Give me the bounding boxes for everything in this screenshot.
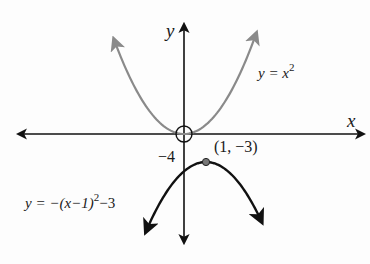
graph-figure: x y y = x2 y = −(x−1)2−3 (1, −3) −4 [0, 0, 370, 264]
series-label-x-squared: y = x2 [256, 61, 294, 81]
curve-negative-shifted-parabola [146, 162, 263, 233]
series-label-shifted-tail: −3 [99, 195, 115, 211]
vertex-point [202, 158, 209, 165]
y-axis-label: y [164, 20, 175, 41]
series-label-x-squared-exponent: 2 [289, 61, 295, 73]
x-axis-label: x [346, 110, 356, 131]
vertex-coordinate-label: (1, −3) [214, 138, 258, 156]
series-label-shifted-parabola: y = −(x−1)2−3 [23, 191, 115, 212]
series-label-shifted-text: y = −(x−1) [23, 195, 94, 212]
coordinate-plane: x y y = x2 y = −(x−1)2−3 (1, −3) −4 [0, 0, 370, 264]
series-label-x-squared-text: y = x [256, 65, 289, 81]
y-intercept-label: −4 [158, 148, 175, 165]
curve-y-equals-x-squared [114, 32, 257, 134]
